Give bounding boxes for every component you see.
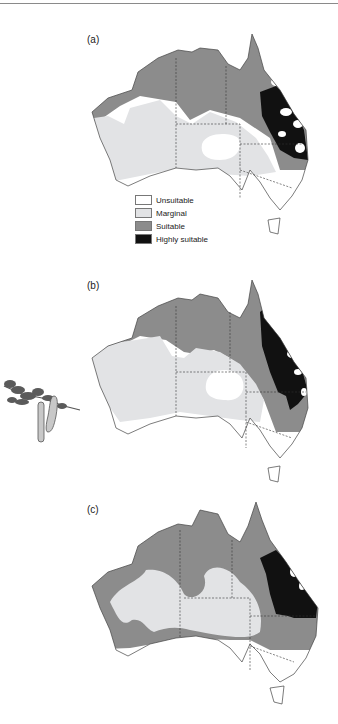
legend-item-suitable: Suitable [135,220,208,232]
swatch-suitable [135,221,152,231]
legend-item-highly-suitable: Highly suitable [135,233,208,245]
legend-label: Highly suitable [156,235,208,244]
top-rule [0,3,338,4]
legend-item-marginal: Marginal [135,207,208,219]
swatch-highly-suitable [135,234,152,244]
swatch-marginal [135,208,152,218]
swatch-unsuitable [135,195,152,205]
map-panel-c: (c) [80,490,338,724]
map-panel-a: (a) Unsuitable Marginal [80,20,338,240]
legend-label: Marginal [156,209,187,218]
australia-map-c [80,490,338,724]
australia-map-a [80,20,338,240]
legend-label: Unsuitable [156,196,194,205]
australia-map-b [80,272,338,487]
legend-item-unsuitable: Unsuitable [135,194,208,206]
legend-label: Suitable [156,222,185,231]
legend: Unsuitable Marginal Suitable Highly suit… [135,194,208,246]
acacia-illustration [2,376,84,446]
map-panel-b: (b) [80,272,338,487]
